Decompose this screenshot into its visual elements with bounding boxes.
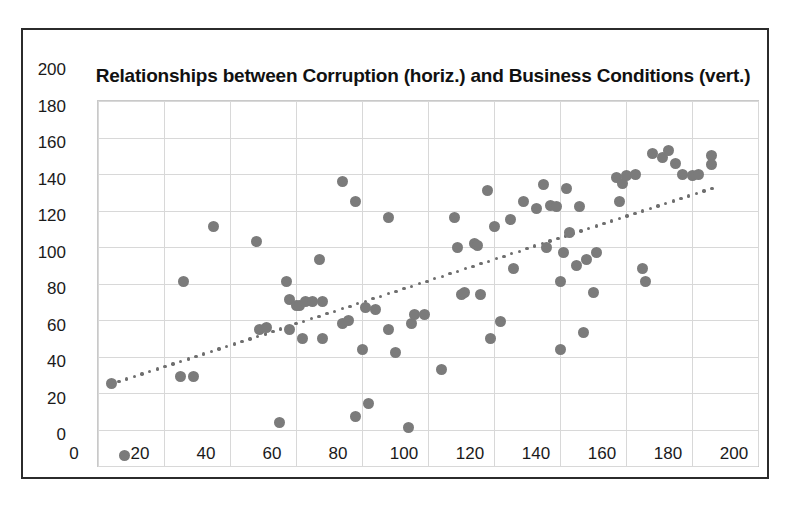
y-axis-tick-label: 100 bbox=[6, 243, 66, 263]
trendline-dot bbox=[125, 377, 128, 380]
data-point bbox=[561, 183, 572, 194]
gridline-vertical bbox=[692, 101, 693, 466]
trendline-dot bbox=[148, 370, 151, 373]
data-point bbox=[297, 333, 308, 344]
trendline-dot bbox=[240, 340, 243, 343]
trendline-dot bbox=[618, 217, 621, 220]
trendline-dot bbox=[656, 204, 659, 207]
gridline-vertical bbox=[296, 101, 297, 466]
data-point bbox=[541, 242, 552, 253]
trendline-dot bbox=[464, 267, 467, 270]
x-axis-tick-label: 200 bbox=[704, 444, 764, 464]
trendline-dot bbox=[333, 310, 336, 313]
data-point bbox=[475, 289, 486, 300]
data-point bbox=[588, 287, 599, 298]
data-point bbox=[390, 347, 401, 358]
data-point bbox=[284, 324, 295, 335]
trendline-dot bbox=[664, 202, 667, 205]
y-axis-tick-label: 180 bbox=[6, 97, 66, 117]
trendline-dot bbox=[156, 367, 159, 370]
chart-container: Relationships between Corruption (horiz.… bbox=[21, 28, 769, 479]
trendline-dot bbox=[117, 380, 120, 383]
data-point bbox=[558, 247, 569, 258]
data-point bbox=[357, 344, 368, 355]
data-point bbox=[281, 276, 292, 287]
data-point bbox=[350, 411, 361, 422]
trendline-dot bbox=[387, 292, 390, 295]
trendline-dot bbox=[479, 262, 482, 265]
data-point bbox=[531, 203, 542, 214]
data-point bbox=[363, 398, 374, 409]
data-point bbox=[175, 371, 186, 382]
trendline-dot bbox=[217, 347, 220, 350]
x-axis-tick-label: 0 bbox=[44, 444, 104, 464]
trendline-dot bbox=[163, 365, 166, 368]
trendline-dot bbox=[133, 375, 136, 378]
trendline-dot bbox=[625, 214, 628, 217]
gridline-vertical bbox=[164, 101, 165, 466]
x-axis-tick-label: 160 bbox=[572, 444, 632, 464]
trendline-dot bbox=[302, 320, 305, 323]
plot-area bbox=[97, 100, 759, 467]
gridline-vertical bbox=[362, 101, 363, 466]
trendline-dot bbox=[171, 362, 174, 365]
trendline-dot bbox=[210, 350, 213, 353]
data-point bbox=[274, 417, 285, 428]
data-point bbox=[489, 221, 500, 232]
gridline-vertical bbox=[428, 101, 429, 466]
data-point bbox=[485, 333, 496, 344]
trendline-dot bbox=[595, 224, 598, 227]
trendline-dot bbox=[602, 222, 605, 225]
y-axis-tick-label: 160 bbox=[6, 133, 66, 153]
data-point bbox=[370, 304, 381, 315]
trendline-dot bbox=[356, 302, 359, 305]
gridline-vertical bbox=[758, 101, 759, 466]
y-axis-tick-label: 0 bbox=[6, 425, 66, 445]
data-point bbox=[178, 276, 189, 287]
data-point bbox=[449, 212, 460, 223]
trendline-dot bbox=[687, 194, 690, 197]
trendline-dot bbox=[371, 297, 374, 300]
data-point bbox=[495, 316, 506, 327]
trendline-dot bbox=[441, 275, 444, 278]
data-point bbox=[706, 159, 717, 170]
x-axis-tick-label: 60 bbox=[242, 444, 302, 464]
data-point bbox=[383, 324, 394, 335]
x-axis-tick-label: 120 bbox=[440, 444, 500, 464]
data-point bbox=[591, 247, 602, 258]
data-point bbox=[508, 263, 519, 274]
data-point bbox=[350, 196, 361, 207]
data-point bbox=[459, 287, 470, 298]
trendline-dot bbox=[525, 247, 528, 250]
trendline-dot bbox=[425, 280, 428, 283]
trendline-dot bbox=[487, 260, 490, 263]
trendline-dot bbox=[248, 337, 251, 340]
trendline-dot bbox=[672, 199, 675, 202]
trendline-dot bbox=[271, 330, 274, 333]
y-axis-tick-label: 60 bbox=[6, 316, 66, 336]
trendline-dot bbox=[379, 295, 382, 298]
data-point bbox=[261, 322, 272, 333]
trendline-dot bbox=[256, 335, 259, 338]
x-axis-tick-label: 100 bbox=[374, 444, 434, 464]
data-point bbox=[693, 169, 704, 180]
data-point bbox=[663, 145, 674, 156]
trendline-dot bbox=[710, 187, 713, 190]
data-point bbox=[317, 333, 328, 344]
trendline-dot bbox=[294, 322, 297, 325]
x-axis-tick-label: 20 bbox=[110, 444, 170, 464]
trendline-dot bbox=[402, 287, 405, 290]
y-axis-tick-label: 20 bbox=[6, 389, 66, 409]
trendline-dot bbox=[325, 312, 328, 315]
data-point bbox=[360, 302, 371, 313]
trendline-dot bbox=[510, 252, 513, 255]
data-point bbox=[614, 196, 625, 207]
trendline-dot bbox=[679, 197, 682, 200]
data-point bbox=[317, 296, 328, 307]
data-point bbox=[314, 254, 325, 265]
trendline-dot bbox=[317, 315, 320, 318]
trendline-dot bbox=[610, 219, 613, 222]
trendline-dot bbox=[702, 189, 705, 192]
data-point bbox=[555, 344, 566, 355]
trendline-dot bbox=[202, 352, 205, 355]
